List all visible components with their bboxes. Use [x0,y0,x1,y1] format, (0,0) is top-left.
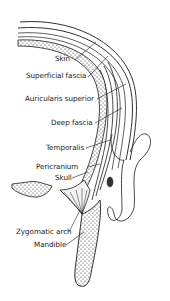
label-skin: Skin [55,55,70,63]
label-temporalis: Temporalis [46,144,84,152]
label-pericranium: Pericranium [36,163,78,171]
ear-outline [108,134,151,221]
label-superficial-fascia: Superficial fascia [26,72,86,80]
nodule [107,177,113,187]
label-mandible: Mandible [34,241,66,249]
zygomatic-fragment [12,181,52,197]
label-zygomatic-arch: Zygomatic arch [16,228,72,236]
label-deep-fascia: Deep fascia [51,119,93,127]
anatomy-diagram [0,0,170,301]
label-skull: Skull [55,174,72,182]
label-auricularis-superior: Auricularis superior [25,95,94,103]
